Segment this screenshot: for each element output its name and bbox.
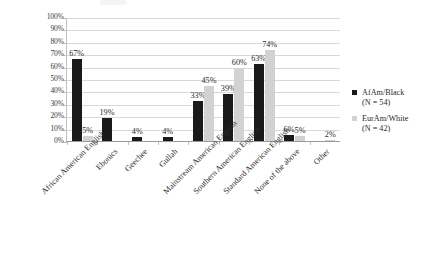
x-axis-tick-mark xyxy=(158,142,159,145)
bar-chart-figure: 100%90%80%70%60%50%40%30%20%10%0% 67%5%1… xyxy=(0,0,438,256)
cropped-title-artifact xyxy=(100,0,126,5)
bar-group: 33%45% xyxy=(193,18,214,142)
bar-afam-black[interactable] xyxy=(193,101,203,142)
legend-swatch-icon-euram-white xyxy=(352,116,357,121)
bar-euram-white[interactable] xyxy=(204,86,214,142)
bar-group: 19% xyxy=(102,18,123,142)
y-axis-tick-label: 70% xyxy=(4,50,64,58)
y-axis-tick-label: 40% xyxy=(4,87,64,95)
x-axis-tick-mark xyxy=(310,142,311,145)
y-axis-tick-label: 50% xyxy=(4,75,64,83)
x-axis-label-text: Geechee xyxy=(123,147,149,173)
y-axis-tick-label: 90% xyxy=(4,25,64,33)
y-axis-tick-label: 30% xyxy=(4,100,64,108)
y-axis-tick-label: 0% xyxy=(4,137,64,145)
bar-value-label: 4% xyxy=(120,127,154,136)
bar-value-label: 67% xyxy=(60,49,94,58)
bar-group: 4% xyxy=(132,18,153,142)
y-axis-tick-label: 10% xyxy=(4,125,64,133)
y-axis-tick-label: 60% xyxy=(4,63,64,71)
bar-afam-black[interactable] xyxy=(102,118,112,142)
bar-value-label: 19% xyxy=(90,108,124,117)
legend-sublabel-afam-black: (N = 54) xyxy=(362,98,438,108)
x-axis-label-text: Other xyxy=(312,147,332,167)
legend: AfAm/Black (N = 54) EurAm/White (N = 42) xyxy=(352,88,438,140)
x-axis-tick-mark xyxy=(67,142,68,145)
legend-sublabel-euram-white: (N = 42) xyxy=(362,124,438,134)
x-axis-label-text: Gullah xyxy=(157,147,179,169)
legend-label-euram-white: EurAm/White xyxy=(362,114,438,124)
legend-swatch-icon-afam-black xyxy=(352,90,357,95)
bar-euram-white[interactable] xyxy=(234,68,244,142)
bar-value-label: 2% xyxy=(313,130,347,139)
bar-group: 4% xyxy=(163,18,184,142)
bar-value-label: 74% xyxy=(253,40,287,49)
x-axis-tick-mark xyxy=(128,142,129,145)
legend-entry-euram-white[interactable]: EurAm/White (N = 42) xyxy=(352,114,438,133)
x-axis-line xyxy=(66,141,340,142)
bar-group: 67%5% xyxy=(72,18,93,142)
y-axis-tick-label: 20% xyxy=(4,112,64,120)
legend-entry-afam-black[interactable]: AfAm/Black (N = 54) xyxy=(352,88,438,107)
x-axis-label-text: Ebonics xyxy=(94,147,119,172)
legend-label-afam-black: AfAm/Black xyxy=(362,88,438,98)
y-axis-tick-label: 80% xyxy=(4,38,64,46)
x-axis-tick-mark xyxy=(188,142,189,145)
bar-group: 2% xyxy=(314,18,335,142)
bar-group: 63%74% xyxy=(254,18,275,142)
bar-value-label: 4% xyxy=(151,127,185,136)
y-axis-tick-label: 100% xyxy=(4,13,64,21)
plot-area: 67%5%19%4%4%33%45%39%60%63%74%6%5%2% xyxy=(67,18,340,142)
bar-group: 6%5% xyxy=(284,18,305,142)
